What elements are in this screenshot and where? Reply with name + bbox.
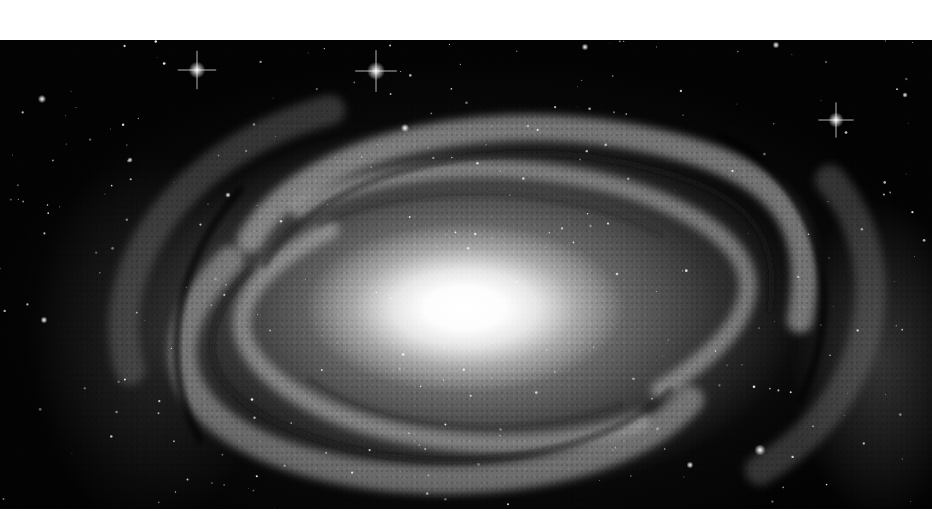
faint-star xyxy=(124,379,126,381)
faint-star xyxy=(808,233,810,235)
faint-star xyxy=(26,303,28,305)
faint-star xyxy=(351,471,353,473)
galaxy-photo xyxy=(0,40,932,509)
faint-star xyxy=(138,118,139,119)
faint-star xyxy=(253,490,255,492)
faint-star xyxy=(577,106,578,107)
faint-star xyxy=(625,113,627,115)
faint-star xyxy=(368,449,370,451)
faint-star xyxy=(546,349,548,351)
faint-star xyxy=(22,111,24,113)
faint-star xyxy=(39,408,42,411)
faint-star xyxy=(66,143,67,144)
faint-star xyxy=(885,40,886,41)
faint-star xyxy=(803,306,804,307)
faint-star xyxy=(616,273,619,276)
faint-star xyxy=(126,144,128,146)
faint-star xyxy=(325,452,327,454)
faint-star xyxy=(158,400,160,402)
faint-star xyxy=(561,227,563,229)
faint-star xyxy=(52,160,54,162)
faint-star xyxy=(885,394,886,395)
faint-star xyxy=(47,204,49,206)
faint-star xyxy=(518,305,519,306)
faint-star xyxy=(615,447,616,448)
faint-star xyxy=(353,81,355,83)
faint-star xyxy=(377,144,379,146)
faint-star xyxy=(910,501,911,502)
faint-star xyxy=(889,192,891,194)
bright-star xyxy=(41,317,48,324)
faint-star xyxy=(0,268,1,270)
faint-star xyxy=(376,292,378,294)
faint-star xyxy=(664,448,666,450)
faint-star xyxy=(577,86,578,87)
faint-star xyxy=(632,377,635,380)
faint-star xyxy=(99,272,101,274)
faint-star xyxy=(2,498,4,500)
faint-star xyxy=(499,428,501,430)
faint-star xyxy=(899,413,902,416)
faint-star xyxy=(902,458,903,459)
faint-star xyxy=(22,200,24,202)
faint-star xyxy=(619,41,621,43)
bright-star xyxy=(38,95,46,103)
faint-star xyxy=(467,247,470,250)
faint-star xyxy=(554,371,556,373)
faint-star xyxy=(492,237,493,238)
faint-star xyxy=(460,64,461,65)
faint-star xyxy=(685,269,688,272)
faint-star xyxy=(390,297,392,299)
faint-star xyxy=(335,157,336,158)
faint-star xyxy=(737,51,739,53)
faint-star xyxy=(89,138,91,140)
faint-star xyxy=(589,225,591,227)
faint-star xyxy=(612,75,614,77)
faint-star xyxy=(791,54,792,55)
faint-star xyxy=(84,387,86,389)
faint-star xyxy=(586,150,588,152)
faint-star xyxy=(158,501,160,503)
faint-star xyxy=(123,45,125,47)
faint-star xyxy=(675,190,676,191)
faint-star xyxy=(316,88,318,90)
faint-star xyxy=(155,40,157,42)
faint-star xyxy=(17,184,19,186)
faint-star xyxy=(812,425,814,427)
faint-star xyxy=(782,487,784,489)
faint-star xyxy=(656,46,657,47)
faint-star xyxy=(218,155,220,157)
faint-star xyxy=(144,320,145,321)
faint-star xyxy=(599,480,600,481)
faint-star xyxy=(901,329,903,331)
faint-star xyxy=(613,111,615,113)
faint-star xyxy=(820,100,821,101)
faint-star xyxy=(426,492,429,495)
faint-star xyxy=(609,43,610,44)
faint-star xyxy=(253,123,255,125)
bright-star xyxy=(225,192,231,198)
faint-star xyxy=(828,257,830,259)
faint-star xyxy=(923,239,926,242)
faint-star xyxy=(413,277,414,278)
faint-star xyxy=(210,304,212,306)
faint-star xyxy=(477,463,480,466)
faint-star xyxy=(500,435,501,436)
faint-star xyxy=(568,220,569,221)
faint-star xyxy=(470,395,472,397)
faint-star xyxy=(420,386,421,387)
faint-star xyxy=(790,391,792,393)
faint-star xyxy=(593,347,594,348)
faint-star xyxy=(474,233,476,235)
faint-star xyxy=(163,62,166,65)
faint-star xyxy=(912,42,913,43)
faint-star xyxy=(682,270,683,271)
faint-star xyxy=(588,107,591,110)
faint-star xyxy=(451,88,453,90)
faint-star xyxy=(223,294,225,296)
faint-star xyxy=(509,194,510,195)
faint-star xyxy=(290,422,292,424)
faint-star xyxy=(274,508,275,509)
faint-star xyxy=(883,181,886,184)
faint-star xyxy=(76,107,77,108)
